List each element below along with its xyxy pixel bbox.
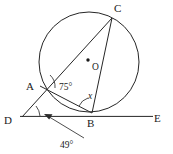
point-label-C: C [114, 2, 121, 14]
point-label-A: A [26, 80, 34, 92]
point-label-B: B [87, 117, 94, 129]
angle-label-x: x [87, 91, 93, 101]
angle-label-49: 49° [60, 140, 74, 150]
point-label-D: D [4, 114, 12, 126]
geometry-figure-canvas: A B C D E O 75° x 49° [0, 0, 173, 154]
centre-point-O-dot [86, 58, 89, 61]
angle-arc-at-D [36, 106, 40, 116]
angle-label-75: 75° [59, 82, 73, 92]
leader-arrow-line [46, 115, 84, 138]
point-label-E: E [154, 112, 161, 124]
geometry-diagram: A B C D E O 75° x 49° [0, 0, 173, 154]
centre-label-O: O [92, 62, 99, 72]
angle-arc-at-B [79, 98, 88, 106]
